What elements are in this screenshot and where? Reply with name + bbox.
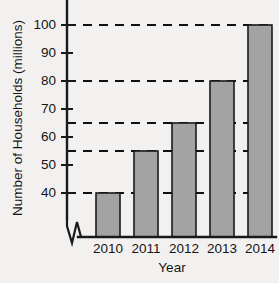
x-tick-label-2014: 2014 <box>245 241 276 256</box>
x-tick-label-2013: 2013 <box>207 241 237 256</box>
x-tick-label-2012: 2012 <box>169 241 199 256</box>
y-tick-label-90: 90 <box>41 45 56 60</box>
y-tick-label-60: 60 <box>41 129 56 144</box>
y-axis-title: Number of Households (millions) <box>10 20 25 216</box>
x-tick-label-group: 2010 2011 2012 2013 2014 <box>93 241 276 256</box>
bar-2012 <box>172 123 196 237</box>
bar-2013 <box>210 81 234 237</box>
chart-canvas: 100 90 80 70 60 50 40 2010 2011 2012 201… <box>0 0 279 283</box>
x-tick-label-2010: 2010 <box>93 241 123 256</box>
bar-2010 <box>96 193 120 237</box>
bar-2011 <box>134 151 158 237</box>
y-tick-label-50: 50 <box>41 157 56 172</box>
bar-chart: 100 90 80 70 60 50 40 2010 2011 2012 201… <box>0 0 279 283</box>
y-tick-label-100: 100 <box>33 17 56 32</box>
y-tick-label-40: 40 <box>41 185 56 200</box>
x-tick-label-2011: 2011 <box>131 241 160 256</box>
y-tick-label-80: 80 <box>41 73 56 88</box>
x-axis-title: Year <box>158 260 186 275</box>
y-tick-label-70: 70 <box>41 101 56 116</box>
bar-2014 <box>248 25 272 237</box>
